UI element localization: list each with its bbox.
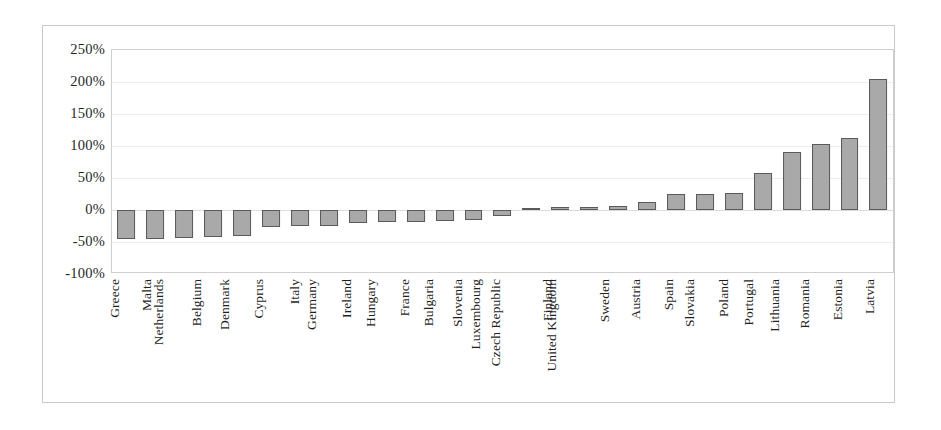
x-axis-tick: Estonia	[836, 275, 865, 400]
x-axis-tick-label: Slovenia	[449, 279, 465, 327]
bar[interactable]	[667, 194, 685, 210]
x-axis-tick-label: Lithuania	[766, 279, 782, 332]
bar-slot	[228, 50, 257, 272]
bar[interactable]	[204, 210, 222, 237]
x-axis-tick-label: Bulgaria	[421, 279, 437, 326]
bar[interactable]	[320, 210, 338, 226]
bar[interactable]	[117, 210, 135, 239]
bar-slot	[575, 50, 604, 272]
bar[interactable]	[754, 173, 772, 210]
bar[interactable]	[378, 210, 396, 222]
bar-slot	[314, 50, 343, 272]
y-axis-tick-label: 50%	[78, 169, 105, 186]
bar-slot	[748, 50, 777, 272]
bar-slot	[343, 50, 372, 272]
x-axis-tick-label: Italy	[287, 279, 303, 304]
x-axis-tick-label: Belgium	[189, 279, 205, 326]
x-axis-tick: Cyprus	[256, 275, 285, 400]
bar-slot	[170, 50, 199, 272]
bar-slot	[835, 50, 864, 272]
bar-slot	[633, 50, 662, 272]
bar-slot	[517, 50, 546, 272]
bar[interactable]	[146, 210, 164, 239]
x-axis-tick-label: Austria	[627, 279, 643, 319]
bar[interactable]	[696, 194, 714, 210]
y-axis-tick-label: -100%	[65, 265, 105, 282]
y-axis-tick-label: -50%	[73, 233, 105, 250]
x-axis-tick-label: Greece	[106, 279, 122, 318]
y-axis-tick-label: 150%	[70, 105, 105, 122]
chart-canvas: 250%200%150%100%50%0%-50%-100% GreeceMal…	[43, 26, 896, 404]
bar[interactable]	[407, 210, 425, 222]
bar-slot	[864, 50, 893, 272]
x-axis-tick-label: Romania	[797, 279, 813, 328]
bar-slot	[199, 50, 228, 272]
y-axis-tick-label: 200%	[70, 73, 105, 90]
bar[interactable]	[869, 79, 887, 210]
x-axis-tick: Greece	[111, 275, 140, 400]
x-axis-tick-label: Portugal	[740, 279, 756, 326]
x-axis-tick-label: France	[397, 279, 413, 316]
bar-slot	[604, 50, 633, 272]
bar[interactable]	[233, 210, 251, 236]
bar[interactable]	[465, 210, 483, 220]
bar-slot	[488, 50, 517, 272]
x-axis-tick-label: Netherlands	[150, 279, 166, 345]
x-axis-tick-label: Czech Republic	[488, 279, 504, 366]
x-axis-tick: Latvia	[865, 275, 894, 400]
x-axis-tick-label: Sweden	[597, 279, 613, 322]
y-axis-tick-label: 0%	[85, 201, 105, 218]
bar[interactable]	[812, 144, 830, 210]
y-axis-tick-label: 100%	[70, 137, 105, 154]
x-axis-tick-label: Ireland	[338, 279, 354, 318]
bar-series	[112, 50, 893, 272]
bar[interactable]	[609, 206, 627, 210]
bar-slot	[141, 50, 170, 272]
x-axis-tick: Austria	[633, 275, 662, 400]
bar-slot	[257, 50, 286, 272]
bar-slot	[112, 50, 141, 272]
y-axis: 250%200%150%100%50%0%-50%-100%	[43, 26, 111, 278]
x-axis-tick-label: Hungary	[363, 279, 379, 327]
bar-slot	[662, 50, 691, 272]
x-axis-tick-label: Cyprus	[251, 279, 267, 319]
bar-slot	[372, 50, 401, 272]
x-axis-tick-label: Poland	[715, 279, 731, 317]
bar[interactable]	[493, 210, 511, 216]
x-axis-tick-label: Estonia	[830, 279, 846, 320]
bar[interactable]	[783, 152, 801, 210]
bar[interactable]	[551, 207, 569, 210]
x-axis-tick-label: Spain	[661, 279, 677, 310]
bar-slot	[286, 50, 315, 272]
bar-slot	[546, 50, 575, 272]
bar[interactable]	[349, 210, 367, 223]
bar-slot	[806, 50, 835, 272]
plot-area	[111, 49, 894, 273]
x-axis-tick-label: Latvia	[862, 279, 878, 314]
bar-slot	[459, 50, 488, 272]
bar-slot	[690, 50, 719, 272]
bar[interactable]	[725, 193, 743, 210]
bar-slot	[430, 50, 459, 272]
bar[interactable]	[841, 138, 859, 210]
x-axis-tick-label: Denmark	[216, 279, 232, 330]
bar[interactable]	[436, 210, 454, 221]
x-axis-tick-label: Germany	[303, 279, 319, 330]
bar-slot	[401, 50, 430, 272]
bar[interactable]	[638, 202, 656, 210]
x-axis-tick-label: Slovakia	[681, 279, 697, 327]
figure-frame: 250%200%150%100%50%0%-50%-100% GreeceMal…	[42, 25, 895, 403]
y-axis-tick-label: 250%	[70, 41, 105, 58]
bar[interactable]	[522, 208, 540, 210]
bar[interactable]	[580, 207, 598, 210]
bar[interactable]	[175, 210, 193, 238]
x-axis: GreeceMaltaNetherlandsBelgiumDenmarkCypr…	[111, 275, 894, 400]
bar-slot	[719, 50, 748, 272]
bar-slot	[777, 50, 806, 272]
bar[interactable]	[262, 210, 280, 227]
x-axis-tick-label: United Kingdom	[543, 279, 559, 372]
x-axis-tick-label: Luxembourg	[467, 279, 483, 350]
bar[interactable]	[291, 210, 309, 226]
